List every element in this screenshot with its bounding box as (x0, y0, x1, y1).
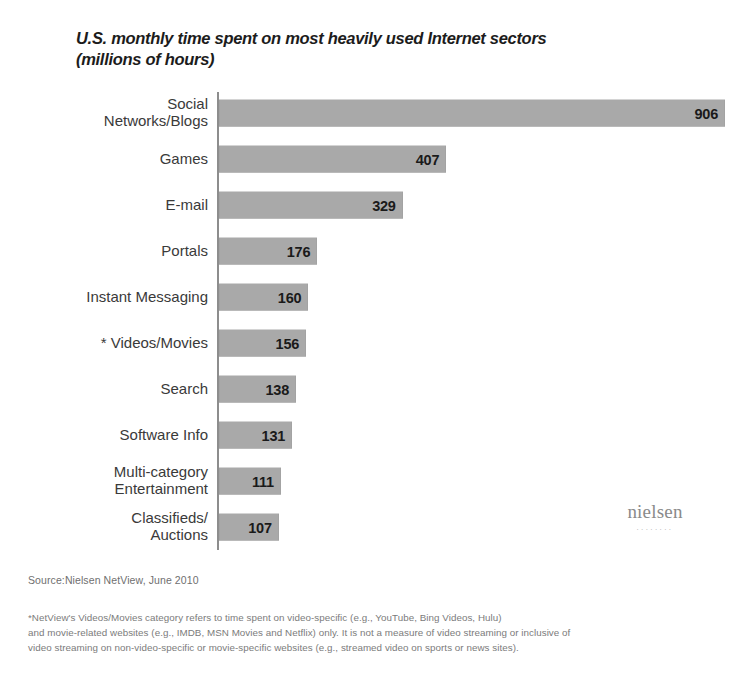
bar-value-label: 906 (694, 105, 718, 121)
bar[interactable]: 138 (219, 376, 296, 403)
nielsen-logo: nielsen ........ (601, 502, 709, 532)
bar-value-label: 329 (372, 197, 396, 213)
bar-fill: 138 (219, 376, 296, 403)
bar[interactable]: 107 (219, 514, 279, 541)
bar-fill: 131 (219, 422, 292, 449)
chart-title: U.S. monthly time spent on most heavily … (76, 28, 636, 71)
chart-title-line-2: (millions of hours) (76, 49, 636, 70)
footnote-line-3: video streaming on non-video-specific or… (28, 640, 618, 655)
bar-category-label: Instant Messaging (0, 289, 208, 306)
bar-row: Search138 (0, 366, 756, 412)
bar-category-label: Software Info (0, 427, 208, 444)
bar-fill: 160 (219, 284, 308, 311)
bar-value-label: 160 (278, 289, 302, 305)
bar[interactable]: 131 (219, 422, 292, 449)
bar[interactable]: 111 (219, 468, 281, 495)
bar-row: Instant Messaging160 (0, 274, 756, 320)
bar[interactable]: 407 (219, 146, 446, 173)
footnote-line-2: and movie-related websites (e.g., IMDB, … (28, 625, 618, 640)
bar-value-label: 138 (265, 381, 289, 397)
bar-row: Portals176 (0, 228, 756, 274)
bar-value-label: 407 (416, 151, 440, 167)
bar-row: Social Networks/Blogs906 (0, 90, 756, 136)
bar-row: E-mail329 (0, 182, 756, 228)
bar-row: * Videos/Movies156 (0, 320, 756, 366)
footnote-line-1: *NetView's Videos/Movies category refers… (28, 610, 618, 625)
bar-category-label: E-mail (0, 197, 208, 214)
bar-value-label: 107 (248, 519, 272, 535)
bar[interactable]: 156 (219, 330, 306, 357)
nielsen-logo-dots: ........ (601, 524, 709, 532)
bar-category-label: Portals (0, 243, 208, 260)
bar-category-label: Classifieds/ Auctions (0, 510, 208, 544)
bar-row: Games407 (0, 136, 756, 182)
bar-fill: 176 (219, 238, 317, 265)
bar-series: Social Networks/Blogs906Games407E-mail32… (0, 88, 756, 554)
bar-fill: 107 (219, 514, 279, 541)
bar[interactable]: 329 (219, 192, 403, 219)
bar-fill: 329 (219, 192, 403, 219)
bar-category-label: * Videos/Movies (0, 335, 208, 352)
bar-category-label: Multi-category Entertainment (0, 464, 208, 498)
chart-plot-area: Social Networks/Blogs906Games407E-mail32… (0, 88, 756, 554)
bar-value-label: 156 (276, 335, 300, 351)
bar-fill: 111 (219, 468, 281, 495)
footnote: *NetView's Videos/Movies category refers… (28, 610, 618, 656)
bar[interactable]: 160 (219, 284, 308, 311)
source-line: Source:Nielsen NetView, June 2010 (28, 574, 199, 586)
bar[interactable]: 906 (219, 100, 725, 127)
bar[interactable]: 176 (219, 238, 317, 265)
bar-category-label: Social Networks/Blogs (0, 96, 208, 130)
bar-fill: 407 (219, 146, 446, 173)
bar-value-label: 131 (262, 427, 286, 443)
bar-fill: 156 (219, 330, 306, 357)
bar-category-label: Games (0, 151, 208, 168)
bar-category-label: Search (0, 381, 208, 398)
nielsen-wordmark: nielsen (601, 502, 709, 521)
bar-row: Multi-category Entertainment111 (0, 458, 756, 504)
bar-fill: 906 (219, 100, 725, 127)
bar-value-label: 111 (252, 473, 274, 489)
chart-title-line-1: U.S. monthly time spent on most heavily … (76, 28, 636, 49)
bar-row: Software Info131 (0, 412, 756, 458)
bar-value-label: 176 (287, 243, 311, 259)
